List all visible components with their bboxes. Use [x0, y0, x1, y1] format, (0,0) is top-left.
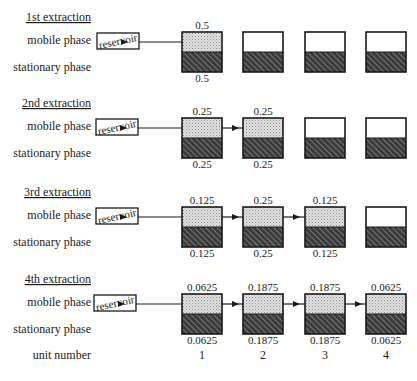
stationary-phase-cell	[182, 314, 222, 334]
mobile-phase-cell	[243, 32, 283, 52]
unit-1: 0.1250.125	[182, 194, 222, 259]
stationary-fraction: 0.25	[253, 158, 273, 170]
stationary-fraction: 0.0625	[371, 334, 402, 346]
unit-number-row: unit number1234	[33, 348, 389, 362]
unit-3: 0.18750.1875	[305, 281, 345, 346]
unit-3: 0.1250.125	[305, 194, 345, 259]
stationary-phase-cell	[243, 227, 283, 247]
mobile-fraction: 0.25	[192, 105, 212, 117]
mobile-phase-cell	[243, 207, 283, 227]
stationary-phase-cell	[182, 138, 222, 158]
stationary-fraction: 0.0625	[187, 334, 218, 346]
stationary-phase-cell	[243, 52, 283, 72]
mobile-phase-label: mobile phase	[27, 119, 91, 133]
mobile-phase-label: mobile phase	[27, 33, 91, 47]
mobile-phase-cell	[243, 118, 283, 138]
stationary-phase-cell	[366, 138, 406, 158]
stationary-phase-cell	[182, 52, 222, 72]
unit-number: 4	[383, 348, 389, 362]
mobile-phase-cell	[305, 207, 345, 227]
stationary-fraction: 0.1875	[310, 334, 341, 346]
stationary-phase-cell	[243, 314, 283, 334]
unit-number: 1	[199, 348, 205, 362]
extraction-row-1: 1st extractionmobile phasestationary pha…	[13, 10, 406, 84]
mobile-fraction: 0.1875	[310, 281, 341, 293]
unit-2: 0.18750.1875	[243, 281, 283, 346]
mobile-fraction: 0.1875	[248, 281, 279, 293]
mobile-phase-cell	[366, 294, 406, 314]
unit-4: 0.06250.0625	[366, 281, 406, 346]
stationary-fraction: 0.1875	[248, 334, 279, 346]
reservoir-box: reservoir	[94, 293, 136, 313]
arrow-icon	[232, 125, 239, 131]
mobile-phase-cell	[305, 118, 345, 138]
reservoir-box: reservoir	[97, 31, 139, 51]
unit-1: 0.06250.0625	[182, 281, 222, 346]
stationary-fraction: 0.25	[253, 247, 273, 259]
mobile-phase-cell	[366, 118, 406, 138]
reservoir-box: reservoir	[96, 206, 138, 226]
unit-2: 0.250.25	[243, 194, 283, 259]
stationary-phase-cell	[366, 52, 406, 72]
mobile-fraction: 0.5	[195, 19, 209, 31]
mobile-fraction: 0.125	[313, 194, 338, 206]
mobile-phase-cell	[182, 294, 222, 314]
stationary-phase-cell	[243, 138, 283, 158]
extraction-title: 2nd extraction	[22, 96, 91, 110]
mobile-fraction: 0.0625	[187, 281, 218, 293]
stationary-phase-label: stationary phase	[13, 146, 91, 160]
unit-1: 0.250.25	[182, 105, 222, 170]
arrow-icon	[232, 301, 239, 307]
stationary-phase-label: stationary phase	[13, 235, 91, 249]
reservoir-box: reservoir	[96, 117, 138, 137]
arrow-icon	[355, 301, 362, 307]
extraction-row-4: 4th extractionmobile phasestationary pha…	[13, 272, 406, 346]
mobile-phase-cell	[305, 32, 345, 52]
extraction-title: 3rd extraction	[24, 185, 91, 199]
unit-number: 2	[260, 348, 266, 362]
mobile-phase-cell	[366, 207, 406, 227]
arrow-icon	[293, 214, 300, 220]
stationary-phase-cell	[305, 314, 345, 334]
mobile-phase-label: mobile phase	[27, 295, 91, 309]
stationary-fraction: 0.125	[190, 247, 215, 259]
unit-3	[305, 32, 345, 72]
mobile-phase-cell	[366, 32, 406, 52]
mobile-phase-cell	[182, 32, 222, 52]
mobile-phase-cell	[182, 207, 222, 227]
stationary-fraction: 0.5	[195, 72, 209, 84]
unit-2: 0.250.25	[243, 105, 283, 170]
extraction-title: 1st extraction	[26, 10, 91, 24]
extraction-row-2: 2nd extractionmobile phasestationary pha…	[13, 96, 406, 170]
stationary-phase-label: stationary phase	[13, 60, 91, 74]
stationary-phase-cell	[305, 52, 345, 72]
mobile-fraction: 0.125	[190, 194, 215, 206]
stationary-phase-cell	[182, 227, 222, 247]
stationary-phase-cell	[366, 227, 406, 247]
stationary-fraction: 0.125	[313, 247, 338, 259]
unit-3	[305, 118, 345, 158]
mobile-fraction: 0.25	[253, 105, 273, 117]
mobile-phase-label: mobile phase	[27, 208, 91, 222]
mobile-fraction: 0.0625	[371, 281, 402, 293]
stationary-phase-cell	[305, 138, 345, 158]
arrow-icon	[232, 214, 239, 220]
extraction-title: 4th extraction	[25, 272, 91, 286]
unit-2	[243, 32, 283, 72]
unit-number: 3	[322, 348, 328, 362]
mobile-fraction: 0.25	[253, 194, 273, 206]
arrow-icon	[293, 301, 300, 307]
extraction-row-3: 3rd extractionmobile phasestationary pha…	[13, 185, 406, 259]
unit-1: 0.50.5	[182, 19, 222, 84]
unit-4	[366, 207, 406, 247]
stationary-phase-label: stationary phase	[13, 322, 91, 336]
mobile-phase-cell	[182, 118, 222, 138]
stationary-fraction: 0.25	[192, 158, 212, 170]
unit-4	[366, 118, 406, 158]
stationary-phase-cell	[305, 227, 345, 247]
mobile-phase-cell	[305, 294, 345, 314]
unit-number-label: unit number	[33, 348, 91, 362]
stationary-phase-cell	[366, 314, 406, 334]
unit-4	[366, 32, 406, 72]
mobile-phase-cell	[243, 294, 283, 314]
